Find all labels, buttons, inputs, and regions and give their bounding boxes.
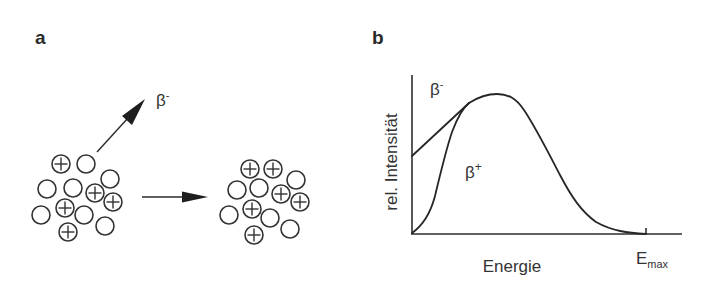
proton-icon: [56, 199, 74, 217]
shared-spectrum-tail: [469, 94, 646, 234]
proton-icon: [86, 184, 104, 202]
neutron-icon: [75, 206, 93, 224]
proton-icon: [104, 193, 122, 211]
emission-arrow-icon: [97, 99, 145, 152]
y-axis-label: rel. Intensität: [382, 113, 401, 211]
neutron-icon: [32, 206, 50, 224]
neutron-icon: [228, 181, 246, 199]
beta-plus-curve: [412, 103, 469, 233]
proton-icon: [264, 160, 282, 178]
neutron-icon: [220, 206, 238, 224]
neutron-icon: [77, 155, 95, 173]
proton-icon: [241, 160, 259, 178]
panel-b: b β- β+ rel. Intensität Energie Emax: [372, 27, 682, 276]
proton-icon: [272, 185, 290, 203]
proton-icon: [245, 226, 263, 244]
panel-b-label: b: [372, 27, 384, 48]
neutron-icon: [250, 179, 268, 197]
beta-minus-curve-label: β-: [430, 78, 444, 99]
neutron-icon: [96, 217, 114, 235]
proton-icon: [291, 193, 309, 211]
x-axis-label: Energie: [483, 257, 542, 276]
neutron-icon: [101, 170, 119, 188]
panel-a-label: a: [35, 27, 46, 48]
figure: a β- b β- β+ rel. Intensität: [0, 0, 714, 288]
nucleus-before-decay: [32, 155, 122, 241]
proton-icon: [52, 155, 70, 173]
nucleus-after-decay: [220, 160, 309, 244]
beta-minus-emitted-label: β-: [156, 89, 170, 110]
neutron-icon: [64, 179, 82, 197]
transition-arrow-icon: [142, 192, 208, 203]
beta-plus-curve-label: β+: [465, 160, 482, 182]
neutron-icon: [281, 220, 299, 238]
neutron-icon: [287, 171, 305, 189]
beta-minus-curve: [412, 103, 469, 156]
proton-icon: [59, 223, 77, 241]
neutron-icon: [261, 209, 279, 227]
neutron-icon: [38, 180, 56, 198]
emax-label: Emax: [636, 249, 669, 270]
proton-icon: [243, 200, 261, 218]
panel-a: a β-: [32, 27, 309, 244]
